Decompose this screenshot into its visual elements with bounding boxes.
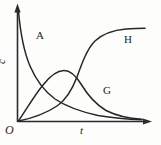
curve-label-a: A — [36, 30, 44, 41]
curve-label-g: G — [103, 85, 111, 96]
kinetics-chart-figure: A G H O t c — [0, 0, 161, 145]
time-axis-arrow-icon — [143, 118, 152, 124]
curve-label-h: H — [124, 34, 132, 45]
curve-a-path — [19, 11, 143, 120]
concentration-axis-arrow-icon — [14, 4, 20, 13]
origin-label: O — [5, 124, 14, 136]
concentration-axis-label: c — [0, 59, 7, 64]
time-axis-label: t — [80, 125, 83, 136]
